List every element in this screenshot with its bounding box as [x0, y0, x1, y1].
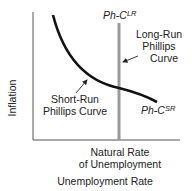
long-run-annotation-line2: Phillips: [129, 40, 189, 52]
short-run-annotation-line1: Short-Run: [37, 93, 113, 105]
x-axis-label: Unemployment Rate: [50, 175, 160, 187]
short-run-annotation: Short-Run Phillips Curve: [37, 93, 113, 117]
long-run-label-prefix: Ph-C: [103, 9, 127, 21]
natural-rate-line1: Natural Rate: [70, 146, 170, 158]
natural-rate-label: Natural Rate of Unemployment: [70, 146, 170, 170]
long-run-curve-label: Ph-CLR: [103, 9, 137, 21]
short-run-arrow: [76, 80, 87, 93]
y-axis-label: Inflation: [6, 73, 18, 123]
long-run-annotation-line1: Long-Run: [129, 28, 189, 40]
short-run-label-prefix: Ph-C: [141, 104, 165, 116]
long-run-annotation: Long-Run Phillips Curve: [129, 28, 189, 64]
short-run-label-sup: SR: [165, 104, 175, 113]
short-run-curve-label: Ph-CSR: [141, 104, 175, 116]
long-run-annotation-line3: Curve: [129, 52, 189, 64]
short-run-annotation-line2: Phillips Curve: [37, 105, 113, 117]
natural-rate-line2: of Unemployment: [70, 158, 170, 170]
long-run-label-sup: LR: [127, 9, 137, 18]
